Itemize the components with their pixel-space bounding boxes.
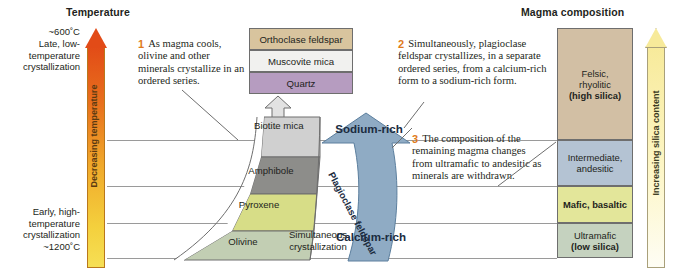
callout-2-text: Simultaneously, plagioclase feldspar cry… bbox=[398, 38, 547, 86]
composition-intermediate-line2: andesitic bbox=[576, 163, 613, 174]
callout-3-leader-line-left bbox=[392, 120, 422, 150]
wedge-label-biotite-mica: Biotite mica bbox=[254, 120, 298, 132]
page-title-temperature: Temperature bbox=[66, 6, 130, 18]
mineral-box-muscovite-mica: Muscovite mica bbox=[249, 50, 353, 72]
wedge-label-pyroxene-text: Pyroxene bbox=[239, 199, 280, 210]
composition-box-mafic: Mafic, basaltic bbox=[557, 186, 633, 223]
temp-bottom-value: ~1200˚C bbox=[0, 241, 80, 253]
wedge-label-amphibole-text: Amphibole bbox=[248, 165, 293, 176]
composition-felsic-line2: rhyolitic bbox=[579, 79, 611, 90]
temperature-arrow-label: Decreasing temperature bbox=[89, 76, 99, 196]
diagram-canvas: Temperature Magma composition ~600˚C Lat… bbox=[0, 0, 681, 277]
temp-top-label-1: Late, low- bbox=[0, 38, 80, 50]
temp-bottom-label-2: temperature bbox=[0, 218, 80, 230]
wedge-label-olivine: Olivine bbox=[206, 236, 280, 248]
composition-felsic-line3: (high silica) bbox=[569, 90, 621, 101]
callout-1-number: 1 bbox=[138, 38, 144, 50]
composition-box-ultramafic: Ultramafic (low silica) bbox=[557, 223, 633, 258]
callout-1: 1 As magma cools, olivine and other mine… bbox=[138, 38, 246, 88]
temperature-arrow-head-icon bbox=[85, 28, 107, 48]
callout-2: 2 Simultaneously, plagioclase feldspar c… bbox=[398, 38, 558, 88]
silica-arrow-label: Increasing silica content bbox=[651, 83, 661, 203]
mineral-box-quartz-label: Quartz bbox=[287, 78, 316, 89]
temp-top-label-3: crystallization bbox=[0, 61, 80, 73]
mineral-box-muscovite-mica-label: Muscovite mica bbox=[268, 56, 334, 67]
temp-bottom-label-3: crystallization bbox=[0, 229, 80, 241]
composition-box-intermediate: Intermediate, andesitic bbox=[557, 140, 633, 186]
page-title-magma-composition: Magma composition bbox=[521, 6, 624, 18]
wedge-label-amphibole: Amphibole bbox=[234, 165, 308, 177]
silica-arrow-head-outline bbox=[645, 28, 667, 48]
plagioclase-calcium-rich-text: Calcium-rich bbox=[336, 230, 406, 243]
temp-top-value: ~600˚C bbox=[0, 26, 80, 38]
wedge-label-biotite-mica-text: Biotite mica bbox=[254, 120, 304, 131]
composition-ultramafic-line1: Ultramafic bbox=[574, 230, 616, 241]
mineral-box-orthoclase-feldspar: Orthoclase feldspar bbox=[249, 28, 353, 50]
composition-mafic-line1: Mafic, basaltic bbox=[563, 199, 627, 210]
wedge-label-olivine-text: Olivine bbox=[228, 236, 257, 247]
composition-felsic-line1: Felsic, bbox=[581, 68, 608, 79]
temp-bottom-label-1: Early, high- bbox=[0, 206, 80, 218]
temp-top-label-2: temperature bbox=[0, 50, 80, 62]
composition-intermediate-line1: Intermediate, bbox=[568, 152, 623, 163]
callout-3-leader-line-right bbox=[498, 140, 560, 188]
wedge-label-pyroxene: Pyroxene bbox=[222, 199, 296, 211]
callout-2-number: 2 bbox=[398, 38, 404, 50]
mineral-box-orthoclase-feldspar-label: Orthoclase feldspar bbox=[259, 34, 342, 45]
increasing-silica-content-arrow: Increasing silica content bbox=[645, 28, 667, 268]
decreasing-temperature-arrow: Decreasing temperature bbox=[85, 28, 107, 268]
mineral-box-quartz: Quartz bbox=[249, 72, 353, 94]
callout-1-text: As magma cools, olivine and other minera… bbox=[138, 38, 244, 86]
composition-box-felsic: Felsic, rhyolitic (high silica) bbox=[557, 28, 633, 140]
plagioclase-calcium-rich-label: Calcium-rich bbox=[335, 230, 407, 243]
composition-ultramafic-line2: (low silica) bbox=[571, 241, 619, 252]
